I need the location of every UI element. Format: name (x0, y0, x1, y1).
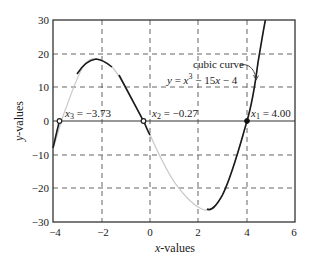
svg-text:0: 0 (44, 115, 50, 127)
svg-text:−4: −4 (49, 226, 61, 238)
svg-text:−2: −2 (97, 226, 109, 238)
svg-text:4: 4 (244, 226, 250, 238)
svg-text:6: 6 (291, 226, 297, 238)
svg-text:−20: −20 (32, 182, 50, 194)
root-label-x2: x2 = −0.27 (151, 107, 199, 121)
root-marker-x3 (57, 119, 62, 124)
cubic-chart: x3 = −3.73 x2 = −0.27 x1 = 4.00 cubic cu… (0, 0, 310, 263)
x-tick-labels: −4 −2 0 2 4 6 (49, 226, 297, 238)
svg-text:−30: −30 (32, 216, 50, 228)
svg-text:10: 10 (38, 81, 50, 93)
svg-text:2: 2 (195, 226, 201, 238)
root-label-x3: x3 = −3.73 (64, 107, 112, 121)
annotation-equation: y = x3 − 15x − 4 (166, 72, 238, 86)
svg-text:−10: −10 (32, 149, 50, 161)
svg-text:30: 30 (38, 14, 50, 26)
x-axis-label: x-values (154, 241, 195, 255)
y-axis-label: y-values (12, 101, 26, 142)
root-marker-x2 (141, 119, 146, 124)
root-marker-x1 (245, 119, 250, 124)
svg-text:20: 20 (38, 48, 50, 60)
annotation-title: cubic curve (193, 58, 244, 70)
root-label-x1: x1 = 4.00 (250, 107, 291, 121)
svg-text:0: 0 (147, 226, 153, 238)
y-tick-labels: 30 20 10 0 −10 −20 −30 (32, 14, 50, 228)
